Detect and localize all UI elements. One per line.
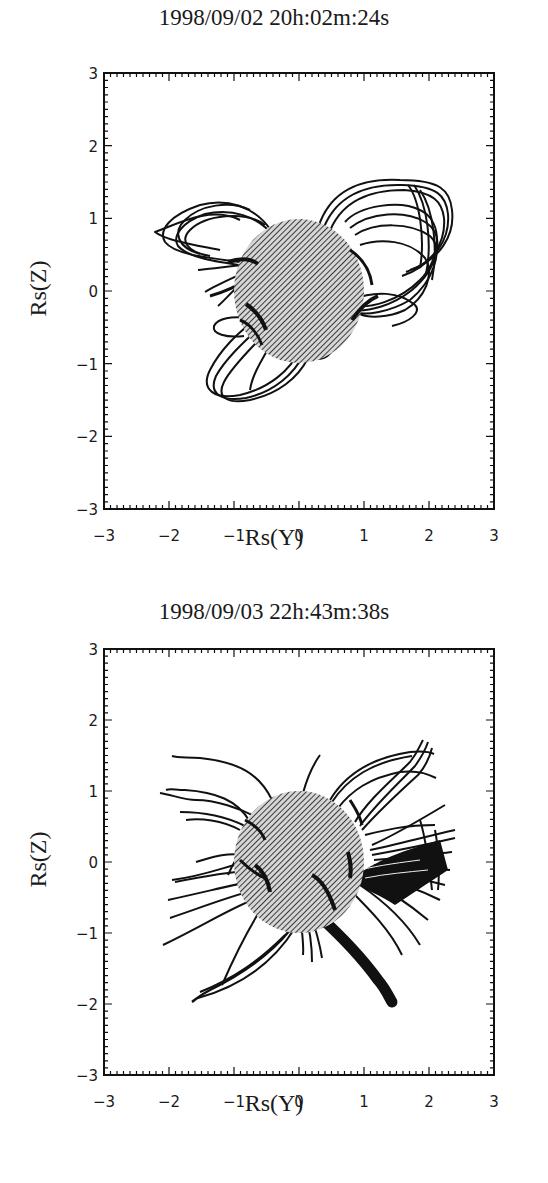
x-tick-label: 3 xyxy=(489,1093,499,1111)
x-tick-label: 0 xyxy=(294,1093,304,1111)
x-tick-label: −3 xyxy=(93,1093,115,1111)
y-tick-label: −3 xyxy=(76,501,98,519)
x-tick-label: 2 xyxy=(424,1093,434,1111)
solar-disk-top xyxy=(234,219,364,363)
y-tick-label: 0 xyxy=(88,283,98,301)
y-tick-label: −3 xyxy=(76,1067,98,1085)
y-tick-label: 3 xyxy=(88,641,98,659)
y-tick-label: −2 xyxy=(76,428,98,446)
plot-top: 3 2 1 0 −1 −2 −3 −3 −2 −1 0 1 2 3 xyxy=(0,0,548,560)
solar-disk-bottom xyxy=(234,791,364,933)
y-tick-label: 3 xyxy=(88,65,98,83)
x-tick-label: −3 xyxy=(93,527,115,545)
y-tick-label: 1 xyxy=(88,783,98,801)
y-tick-labels-top: 3 2 1 0 −1 −2 −3 xyxy=(76,65,98,519)
x-tick-label: 3 xyxy=(489,527,499,545)
y-tick-label: −2 xyxy=(76,996,98,1014)
y-tick-label: 2 xyxy=(88,712,98,730)
x-tick-label: −2 xyxy=(158,1093,180,1111)
thick-flux-tube xyxy=(318,915,392,1002)
x-tick-label: 2 xyxy=(424,527,434,545)
x-tick-label: 1 xyxy=(359,527,369,545)
y-tick-label: −1 xyxy=(76,925,98,943)
x-tick-label: −1 xyxy=(223,1093,245,1111)
y-tick-label: −1 xyxy=(76,356,98,374)
y-tick-labels-bottom: 3 2 1 0 −1 −2 −3 xyxy=(76,641,98,1085)
x-tick-label: −1 xyxy=(223,527,245,545)
x-tick-label: −2 xyxy=(158,527,180,545)
x-tick-labels-top: −3 −2 −1 0 1 2 3 xyxy=(93,527,499,545)
plot-bottom: 3 2 1 0 −1 −2 −3 −3 −2 −1 0 1 2 3 xyxy=(0,576,548,1136)
x-tick-label: 0 xyxy=(294,527,304,545)
y-tick-label: 1 xyxy=(88,210,98,228)
x-tick-label: 1 xyxy=(359,1093,369,1111)
x-tick-labels-bottom: −3 −2 −1 0 1 2 3 xyxy=(93,1093,499,1111)
y-tick-label: 2 xyxy=(88,138,98,156)
y-tick-label: 0 xyxy=(88,854,98,872)
